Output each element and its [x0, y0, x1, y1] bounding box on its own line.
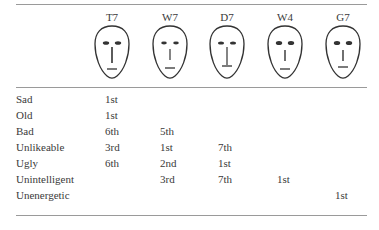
column-header-t7: T7	[87, 11, 137, 23]
face-t7-icon	[92, 24, 132, 80]
column-header-g7: G7	[318, 11, 368, 23]
right-eye	[173, 42, 179, 45]
table-cell: 1st	[160, 141, 173, 153]
right-eye	[288, 41, 294, 45]
left-eye	[218, 41, 224, 44]
column-header-d7: D7	[202, 11, 252, 23]
column-header-w7: W7	[145, 11, 195, 23]
table-rule-bottom	[16, 215, 367, 216]
table-cell: 1st	[277, 173, 290, 185]
column-header-w4: W4	[260, 11, 310, 23]
table-cell: 5th	[160, 125, 174, 137]
table-cell: 3rd	[160, 173, 175, 185]
table-rule-header-bottom	[16, 87, 367, 88]
row-label-sad: Sad	[16, 93, 33, 105]
left-eye	[334, 41, 340, 45]
right-eye	[115, 41, 121, 45]
table-cell: 1st	[335, 189, 348, 201]
row-label-unintelligent: Unintelligent	[16, 173, 74, 185]
table-cell: 1st	[218, 157, 231, 169]
table-rule-top	[16, 4, 367, 5]
left-eye	[276, 41, 282, 45]
row-label-old: Old	[16, 109, 33, 121]
right-eye	[230, 41, 236, 44]
face-w7-icon	[150, 24, 190, 80]
table-cell: 1st	[105, 109, 118, 121]
table-cell: 7th	[218, 173, 232, 185]
face-d7-icon	[207, 24, 247, 80]
row-label-ugly: Ugly	[16, 157, 38, 169]
table-cell: 6th	[105, 157, 119, 169]
row-label-unenergetic: Unenergetic	[16, 189, 70, 201]
face-w4-icon	[265, 24, 305, 80]
face-g7-icon	[323, 24, 363, 80]
left-eye	[161, 42, 167, 45]
table-cell: 6th	[105, 125, 119, 137]
table-cell: 2nd	[160, 157, 177, 169]
table-cell: 1st	[105, 93, 118, 105]
table-cell: 3rd	[105, 141, 120, 153]
table-cell: 7th	[218, 141, 232, 153]
right-eye	[346, 41, 352, 45]
row-label-unlikeable: Unlikeable	[16, 141, 64, 153]
row-label-bad: Bad	[16, 125, 34, 137]
left-eye	[103, 41, 109, 45]
